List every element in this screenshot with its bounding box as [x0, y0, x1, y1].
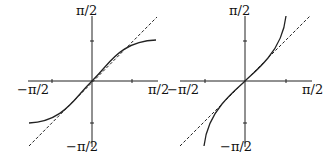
left-y-bottom-label: −π/2 — [66, 140, 98, 153]
right-plot — [180, 16, 312, 147]
right-x-right-label: π/2 — [302, 83, 323, 96]
right-y-bottom-label: −π/2 — [220, 140, 252, 153]
plots-canvas — [0, 0, 334, 159]
left-x-left-label: −π/2 — [17, 83, 49, 96]
right-x-left-label: −π/2 — [167, 83, 199, 96]
left-y-top-label: π/2 — [76, 4, 97, 17]
right-y-top-label: π/2 — [229, 4, 250, 17]
